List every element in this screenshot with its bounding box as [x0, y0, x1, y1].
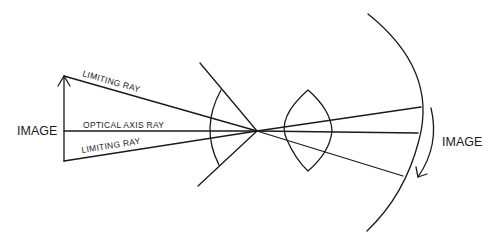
image-label-right: IMAGE [442, 135, 482, 149]
optical-axis-ray-label: OPTICAL AXIS RAY [83, 120, 164, 130]
lens [284, 90, 332, 171]
image-surface-arc [367, 14, 423, 231]
optics-diagram: IMAGE LIMITING RAY OPTICAL AXIS RAY LIMI… [0, 0, 503, 245]
limiting-ray-bottom-label: LIMITING RAY [81, 136, 142, 155]
limiting-ray-top-label: LIMITING RAY [81, 68, 141, 94]
outgoing-rays [257, 107, 421, 176]
object-arrow [58, 76, 70, 161]
entrance-cone [198, 63, 257, 186]
image-label-left: IMAGE [17, 124, 57, 138]
diagram-canvas: IMAGE LIMITING RAY OPTICAL AXIS RAY LIMI… [0, 0, 503, 245]
